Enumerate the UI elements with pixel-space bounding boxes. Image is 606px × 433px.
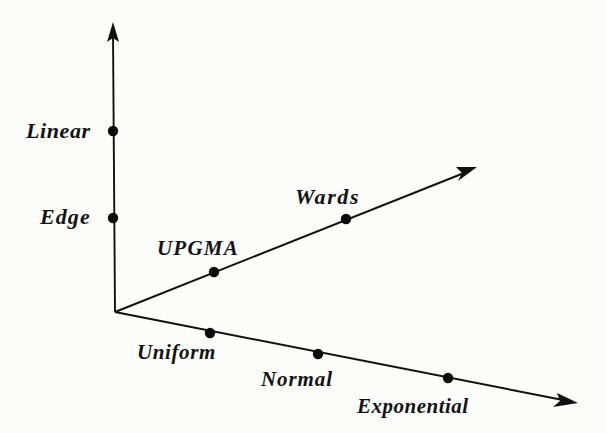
data-point-normal: [313, 349, 323, 359]
data-point-linear: [108, 126, 118, 136]
label-upgma: UPGMA: [157, 238, 239, 259]
vertical-axis-line: [113, 34, 115, 312]
vertical-axis: [107, 22, 119, 312]
label-linear: Linear: [26, 120, 91, 142]
label-edge: Edge: [40, 206, 91, 228]
label-uniform: Uniform: [137, 342, 216, 363]
data-point-exponential: [443, 373, 453, 383]
data-point-wards: [341, 214, 351, 224]
label-normal: Normal: [261, 369, 333, 390]
data-point-uniform: [205, 328, 215, 338]
label-wards: Wards: [295, 186, 360, 208]
label-exponential: Exponential: [357, 396, 469, 417]
axes-diagram: Linear Edge UPGMA Wards Uniform Normal E…: [0, 0, 606, 433]
data-point-upgma: [209, 267, 219, 277]
data-point-edge: [108, 213, 118, 223]
lower-right-axis-arrow-icon: [553, 393, 578, 407]
